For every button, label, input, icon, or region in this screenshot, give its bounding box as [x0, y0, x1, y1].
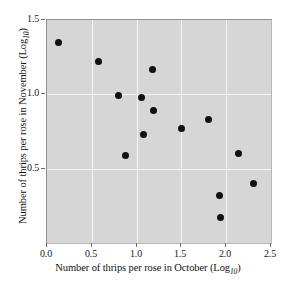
data-point: [235, 150, 242, 157]
data-point: [95, 58, 102, 65]
data-point: [178, 125, 185, 132]
y-axis-tick: [41, 93, 45, 94]
x-axis-tick-label: 0.5: [76, 248, 106, 259]
data-point: [138, 94, 145, 101]
x-axis-tick: [136, 243, 137, 247]
x-axis-tick-label: 2.5: [255, 248, 285, 259]
y-axis-label: Number of thrips per rose in November (L…: [17, 8, 31, 244]
data-point: [217, 214, 224, 221]
y-axis-label-wrap: Number of thrips per rose in November (L…: [0, 0, 22, 250]
gridline-vertical: [92, 20, 93, 243]
x-axis-tick: [46, 243, 47, 247]
x-axis-tick-label: 0.0: [31, 248, 61, 259]
x-axis-label-tail: ): [237, 262, 240, 273]
gridline-horizontal: [47, 169, 271, 170]
scatter-chart-figure: 0.00.51.01.52.02.50.51.01.5 Number of th…: [0, 0, 296, 285]
data-point: [150, 107, 157, 114]
y-axis-tick: [41, 19, 45, 20]
x-axis-tick-label: 1.0: [121, 248, 151, 259]
data-point: [122, 152, 129, 159]
data-point: [115, 92, 122, 99]
x-axis-tick: [91, 243, 92, 247]
x-axis-label-text: Number of thrips per rose in October (Lo…: [55, 262, 230, 273]
x-axis-tick-label: 1.5: [165, 248, 195, 259]
gridline-horizontal: [47, 94, 271, 95]
gridline-vertical: [226, 20, 227, 243]
x-axis-tick: [270, 243, 271, 247]
x-axis-tick: [180, 243, 181, 247]
gridline-vertical: [137, 20, 138, 243]
x-axis-label: Number of thrips per rose in October (Lo…: [0, 262, 296, 276]
data-point: [205, 116, 212, 123]
data-point: [149, 66, 156, 73]
y-axis-label-subscript: 10: [22, 32, 31, 39]
plot-area: [46, 19, 272, 244]
data-point: [140, 131, 147, 138]
y-axis-tick: [41, 168, 45, 169]
y-axis-label-text: Number of thrips per rose in November (L…: [17, 39, 28, 224]
y-axis-label-tail: ): [17, 28, 28, 31]
x-axis-tick-label: 2.0: [210, 248, 240, 259]
x-axis-tick: [225, 243, 226, 247]
data-point: [250, 180, 257, 187]
data-point: [216, 192, 223, 199]
data-point: [55, 39, 62, 46]
